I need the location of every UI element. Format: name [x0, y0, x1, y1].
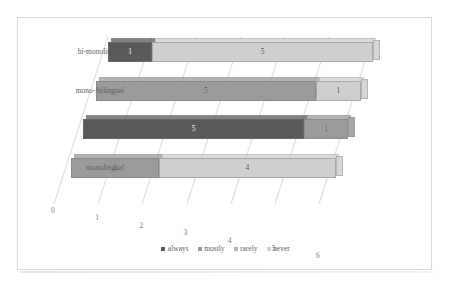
- legend-swatch-icon: [198, 247, 202, 251]
- category-label: bilingual: [97, 124, 124, 133]
- category-label: bi-monolingual: [78, 47, 124, 56]
- chart-legend: alwaysmostlyrarelynever: [18, 244, 433, 253]
- bar-value-label: 4: [246, 164, 250, 172]
- x-tick-label: 2: [139, 221, 143, 230]
- bar-value-label: 1: [128, 48, 132, 56]
- legend-label: mostly: [204, 244, 224, 253]
- bar-segment[interactable]: 4: [159, 158, 336, 178]
- bar-value-label: 1: [337, 87, 341, 95]
- bar-segment[interactable]: 5: [96, 81, 317, 101]
- bar-end-cap: [373, 40, 380, 60]
- legend-label: always: [168, 244, 189, 253]
- bar-end-cap: [336, 156, 343, 176]
- bar-value-label: 5: [261, 48, 265, 56]
- bar-value-label: 5: [192, 125, 196, 133]
- legend-item[interactable]: rarely: [234, 244, 258, 253]
- bar-end-cap: [361, 79, 368, 99]
- chart-screenshot: 012345615515124 bi-monolingualmono-/bili…: [0, 0, 450, 287]
- legend-item[interactable]: never: [267, 244, 290, 253]
- chart-frame: 012345615515124 bi-monolingualmono-/bili…: [17, 17, 432, 270]
- legend-swatch-icon: [234, 247, 238, 251]
- bar-end-cap: [348, 117, 355, 137]
- bar-segment[interactable]: 1: [304, 119, 348, 139]
- bar-segment[interactable]: 1: [316, 81, 360, 101]
- legend-label: rarely: [240, 244, 258, 253]
- bar-segment[interactable]: 5: [152, 42, 373, 62]
- legend-swatch-icon: [267, 247, 271, 251]
- category-axis-labels: bi-monolingualmono-/bilingualbilingualmo…: [36, 18, 124, 271]
- x-tick-label: 3: [184, 228, 188, 237]
- bar-value-label: 5: [204, 87, 208, 95]
- frame-shadow: [20, 271, 434, 273]
- legend-item[interactable]: mostly: [198, 244, 225, 253]
- legend-swatch-icon: [161, 247, 165, 251]
- category-label: mono-/bilingual: [76, 86, 124, 95]
- legend-label: never: [273, 244, 290, 253]
- bar-value-label: 1: [324, 125, 328, 133]
- category-label: monolingual: [86, 163, 124, 172]
- legend-item[interactable]: always: [161, 244, 188, 253]
